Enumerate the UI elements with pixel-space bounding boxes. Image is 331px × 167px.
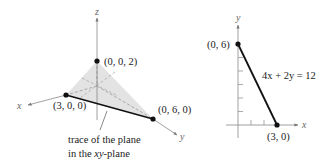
z-axis-label: z — [94, 6, 99, 17]
2d-y-axis-label: y — [235, 12, 241, 23]
2d-equation-label: 4x + 2y = 12 — [262, 70, 316, 81]
annotation-line-2: in the xy-plane — [68, 148, 130, 159]
point-x-intercept — [63, 92, 68, 97]
2d-label-x-intercept: (3, 0) — [267, 131, 290, 143]
2d-x-ticks — [251, 120, 264, 125]
point-z-intercept — [94, 58, 99, 63]
2d-diagram: y x (0, 6) (3, 0) 4x + 2y = 12 — [207, 12, 316, 143]
label-y-intercept: (0, 6, 0) — [158, 104, 192, 116]
label-z-intercept: (0, 0, 2) — [104, 56, 138, 68]
2d-y-ticks — [238, 58, 243, 112]
y-axis-label: y — [179, 131, 185, 142]
label-x-intercept: (3, 0, 0) — [53, 100, 87, 112]
2d-label-y-intercept: (0, 6) — [207, 39, 230, 51]
y-axis — [153, 119, 177, 135]
2d-trace-line — [238, 44, 277, 125]
2d-point-x-intercept — [274, 122, 279, 127]
x-axis-label: x — [16, 100, 22, 111]
2d-x-axis-label: x — [301, 119, 307, 130]
annotation-pointer — [100, 111, 107, 130]
3d-diagram: z x y (0, 0, 2) (3, 0, 0) (0, 6, 0) trac… — [16, 6, 192, 159]
diagram-canvas: z x y (0, 0, 2) (3, 0, 0) (0, 6, 0) trac… — [0, 0, 331, 167]
annotation-line-1: trace of the plane — [68, 134, 141, 145]
2d-point-y-intercept — [235, 41, 240, 46]
point-y-intercept — [150, 116, 155, 121]
